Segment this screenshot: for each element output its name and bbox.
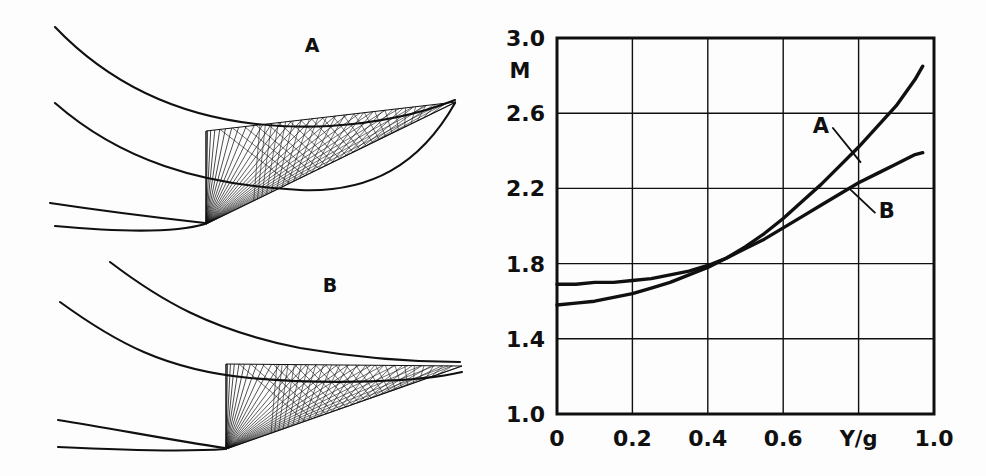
chart-gridlines [557, 38, 934, 414]
y-tick-label: 3.0 [506, 26, 545, 51]
lower-wall-curve-a-2 [55, 224, 205, 231]
nozzle-geometry-panel: A B [0, 0, 480, 476]
y-axis-tick-labels: 1.01.41.82.22.63.0 [506, 26, 545, 427]
x-tick-label: 0.6 [764, 426, 803, 451]
x-tick-label: 0 [549, 426, 564, 451]
characteristics-mesh-b [226, 364, 462, 449]
x-axis-title: Y/g [839, 427, 878, 451]
y-tick-label: 1.8 [506, 252, 545, 277]
y-tick-label: 2.6 [506, 101, 545, 126]
y-tick-label: 2.2 [506, 176, 545, 201]
mach-number-chart-panel: AB 00.20.40.6Y/g1.0 1.01.41.82.22.63.0 M [480, 0, 986, 476]
plot-frame [557, 38, 934, 414]
panel-label-b: B [323, 274, 337, 296]
lower-wall-curve-b [58, 420, 225, 448]
upper-wall-curve-a [55, 27, 455, 127]
lower-wall-curve-b-2 [58, 447, 225, 450]
x-tick-label: 1.0 [915, 426, 954, 451]
x-tick-label: 0.4 [688, 426, 727, 451]
characteristics-mesh-a [206, 102, 456, 224]
figure-root: A B AB 00.20.40.6Y/g1.0 1.01.41.82.22.63… [0, 0, 986, 476]
x-axis-tick-labels: 00.20.40.6Y/g1.0 [549, 426, 953, 451]
y-axis-title: M [510, 59, 531, 83]
chart-annotations: AB [813, 114, 895, 223]
mid-wall-curve-b [60, 302, 462, 382]
chart-series-curves [557, 66, 923, 305]
series-annotation-a: A [813, 114, 830, 138]
lower-wall-curve-a [50, 203, 205, 223]
geometry-diagram-b: B [58, 262, 462, 450]
chart-svg: AB 00.20.40.6Y/g1.0 1.01.41.82.22.63.0 M [480, 0, 986, 476]
panel-label-a: A [305, 34, 320, 56]
upper-wall-curve-b [110, 262, 460, 362]
series-annotation-b: B [879, 199, 895, 223]
y-tick-label: 1.4 [506, 327, 545, 352]
geometry-svg: A B [0, 0, 480, 476]
mid-wall-curve-a [55, 103, 455, 190]
x-tick-label: 0.2 [613, 426, 652, 451]
geometry-diagram-a: A [50, 27, 456, 231]
y-tick-label: 1.0 [506, 402, 545, 427]
